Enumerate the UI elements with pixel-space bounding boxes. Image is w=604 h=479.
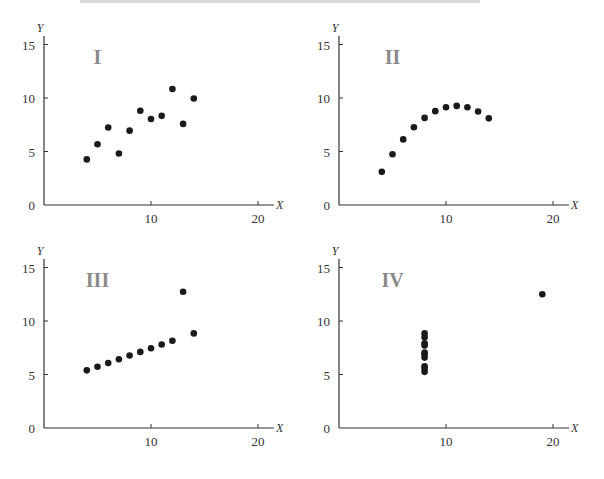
data-point <box>126 127 133 134</box>
y-tick-label: 15 <box>317 261 330 276</box>
data-point <box>191 330 198 337</box>
y-tick-label: 10 <box>317 91 330 106</box>
y-tick-label: 0 <box>324 198 331 213</box>
data-point <box>116 356 123 363</box>
data-point <box>126 352 133 359</box>
data-point <box>443 104 450 111</box>
data-point <box>486 115 493 122</box>
y-tick-label: 5 <box>29 368 36 383</box>
x-tick-label: 10 <box>440 434 453 449</box>
y-axis-name: Y <box>332 244 340 258</box>
y-tick-label: 0 <box>29 421 36 436</box>
x-tick-label: 20 <box>547 211 560 226</box>
data-point <box>421 351 428 358</box>
data-point <box>180 121 187 128</box>
data-point <box>421 340 428 347</box>
y-tick-label: 15 <box>22 261 35 276</box>
data-point <box>169 86 176 93</box>
y-axis-name: Y <box>37 244 45 258</box>
data-point <box>84 156 91 163</box>
scatter-panel-iii: 1020051015XYIII <box>22 244 284 449</box>
data-point <box>432 108 439 115</box>
data-point <box>191 95 198 102</box>
y-tick-label: 0 <box>324 421 331 436</box>
data-point <box>84 367 91 374</box>
x-tick-label: 20 <box>547 434 560 449</box>
y-tick-label: 10 <box>22 91 35 106</box>
x-tick-label: 10 <box>440 211 453 226</box>
data-point <box>453 103 460 110</box>
panel-label: I <box>94 46 102 68</box>
y-tick-label: 0 <box>29 198 36 213</box>
y-tick-label: 5 <box>29 145 36 160</box>
x-tick-label: 10 <box>145 211 158 226</box>
data-point <box>475 108 482 115</box>
y-tick-label: 15 <box>22 38 35 53</box>
data-point <box>389 151 396 158</box>
y-tick-label: 10 <box>317 314 330 329</box>
scatter-panel-i: 1020051015XYI <box>22 21 284 226</box>
data-point <box>94 141 101 148</box>
data-point <box>158 341 165 348</box>
x-tick-label: 10 <box>145 434 158 449</box>
data-point <box>464 104 471 111</box>
data-point <box>148 116 155 123</box>
x-axis-name: X <box>275 421 284 435</box>
panel-label: IV <box>381 269 404 291</box>
data-point <box>116 150 123 157</box>
data-point <box>105 360 112 367</box>
data-point <box>105 124 112 131</box>
data-point <box>421 334 428 341</box>
data-point <box>400 136 407 143</box>
data-point <box>137 349 144 356</box>
x-tick-label: 20 <box>252 211 265 226</box>
y-tick-label: 10 <box>22 314 35 329</box>
data-point <box>539 291 546 298</box>
y-tick-label: 15 <box>317 38 330 53</box>
x-axis-name: X <box>570 198 579 212</box>
data-point <box>148 345 155 352</box>
data-point <box>421 115 428 122</box>
y-tick-label: 5 <box>324 145 331 160</box>
y-axis-name: Y <box>332 21 340 35</box>
scatter-panel-ii: 1020051015XYII <box>317 21 579 226</box>
data-point <box>158 113 165 120</box>
data-point <box>379 169 386 176</box>
x-axis-name: X <box>275 198 284 212</box>
panel-label: II <box>385 46 401 68</box>
data-point <box>411 124 418 131</box>
anscombe-quartet-figure: 1020051015XYI1020051015XYII1020051015XYI… <box>0 0 604 479</box>
data-point <box>180 288 187 295</box>
data-point <box>421 365 428 372</box>
scatter-panel-iv: 1020051015XYIV <box>317 244 579 449</box>
data-point <box>94 363 101 370</box>
data-point <box>169 337 176 344</box>
y-axis-name: Y <box>37 21 45 35</box>
x-tick-label: 20 <box>252 434 265 449</box>
panel-label: III <box>86 269 110 291</box>
y-tick-label: 5 <box>324 368 331 383</box>
data-point <box>137 107 144 114</box>
x-axis-name: X <box>570 421 579 435</box>
